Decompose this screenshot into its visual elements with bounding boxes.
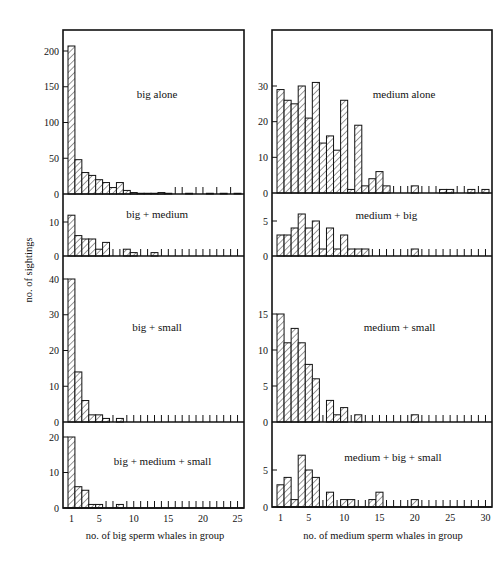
y-tick-label: 0 (54, 251, 59, 262)
bar (96, 180, 103, 194)
bar (291, 500, 298, 507)
panel-label: medium + big (355, 209, 417, 221)
left-x-axis-title: no. of big sperm whales in group (86, 530, 225, 541)
left-column: 050100150200big alone010big + medium0102… (44, 30, 244, 524)
panel-label: big + medium + small (114, 455, 211, 467)
bar (376, 492, 383, 507)
y-tick-label: 150 (44, 81, 59, 92)
bar (298, 343, 305, 422)
bar (277, 314, 284, 422)
left-frame (63, 30, 244, 508)
x-tick-label: 20 (198, 513, 208, 524)
bar (348, 249, 355, 256)
bar (355, 415, 362, 422)
bar (298, 214, 305, 256)
bar (75, 160, 82, 194)
bar (411, 500, 418, 507)
bar (312, 379, 319, 422)
y-tick-label: 10 (49, 467, 59, 478)
panel-medium-plus-big-plus-small: 05medium + big + small151015202530 (263, 451, 492, 523)
panel-big-alone: 050100150200big alone (44, 46, 244, 200)
bar (305, 470, 312, 507)
bar (68, 46, 75, 194)
bar (369, 500, 376, 507)
x-tick-label: 15 (163, 513, 173, 524)
y-tick-label: 200 (44, 46, 59, 57)
x-tick-label: 5 (306, 512, 311, 523)
bar (341, 235, 348, 256)
bar (326, 136, 333, 193)
x-tick-label: 25 (233, 513, 243, 524)
bar (355, 249, 362, 256)
y-tick-label: 5 (263, 465, 268, 476)
bar (284, 235, 291, 256)
panel-label: big alone (137, 88, 178, 100)
bar (116, 183, 123, 194)
bar (334, 415, 341, 422)
bar (291, 228, 298, 256)
bar (355, 125, 362, 193)
bar (298, 455, 305, 507)
bar (383, 186, 390, 193)
y-tick-label: 100 (44, 117, 59, 128)
y-tick-label: 0 (263, 251, 268, 262)
bar (284, 343, 291, 422)
bar (326, 492, 333, 507)
y-tick-label: 0 (54, 417, 59, 428)
bar (305, 118, 312, 193)
panel-label: medium alone (373, 88, 436, 100)
y-tick-label: 0 (263, 188, 268, 199)
x-tick-label: 15 (374, 512, 384, 523)
bar (75, 236, 82, 256)
bar (82, 239, 89, 256)
bar (103, 183, 110, 194)
bar (277, 90, 284, 193)
x-tick-label: 30 (480, 512, 490, 523)
x-tick-label: 25 (445, 512, 455, 523)
y-tick-label: 0 (263, 502, 268, 513)
bar (89, 175, 96, 194)
panel-big-plus-medium-plus-small: 01020big + medium + small1510152025 (49, 432, 244, 525)
bar (291, 328, 298, 422)
y-tick-label: 10 (49, 217, 59, 228)
bar (312, 477, 319, 507)
right-column: 0102030medium alone05medium + big051015m… (258, 30, 492, 523)
bar (305, 228, 312, 256)
bar (75, 372, 82, 422)
panel-big-plus-medium: 010big + medium (49, 208, 244, 262)
bar (284, 477, 291, 507)
bar (305, 364, 312, 422)
bar (326, 400, 333, 422)
bar (284, 100, 291, 193)
bar (68, 437, 75, 508)
panel-medium-plus-big: 05medium + big (263, 209, 492, 262)
bar (96, 415, 103, 422)
bar (376, 172, 383, 193)
bar (312, 82, 319, 193)
panel-label: medium + big + small (344, 451, 441, 463)
bar (319, 249, 326, 256)
bar (362, 186, 369, 193)
bar (103, 242, 110, 256)
bar (291, 104, 298, 193)
bar (110, 188, 117, 194)
y-tick-label: 20 (49, 345, 59, 356)
x-tick-label: 10 (339, 512, 349, 523)
y-tick-label: 0 (263, 417, 268, 428)
bar (326, 228, 333, 256)
bar (411, 249, 418, 256)
bar (298, 86, 305, 193)
y-tick-label: 0 (54, 503, 59, 514)
bar (369, 179, 376, 193)
bar (123, 249, 130, 256)
y-tick-label: 5 (263, 381, 268, 392)
bar (68, 215, 75, 256)
panel-label: big + medium (126, 208, 188, 220)
bar (89, 239, 96, 256)
y-tick-label: 20 (49, 432, 59, 443)
panel-label: big + small (132, 321, 182, 333)
y-tick-label: 10 (49, 381, 59, 392)
panel-label: medium + small (364, 321, 436, 333)
x-tick-label: 10 (129, 513, 139, 524)
y-tick-label: 40 (49, 274, 59, 285)
